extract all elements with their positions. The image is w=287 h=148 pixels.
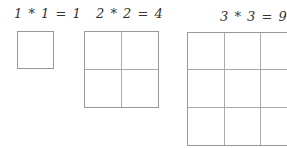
grid-cell	[188, 33, 225, 70]
grid-cell	[18, 32, 53, 68]
equation-label-3x3: 3 * 3 = 9	[220, 9, 287, 24]
grid-3x3	[187, 32, 287, 146]
grid-2x2	[84, 31, 159, 108]
grid-cell	[122, 32, 159, 70]
grid-cell	[122, 70, 159, 108]
grid-1x1	[17, 31, 54, 69]
grid-cell	[85, 70, 122, 108]
equation-label-2x2: 2 * 2 = 4	[96, 6, 164, 21]
grid-cell	[261, 108, 287, 145]
grid-cell	[188, 70, 225, 107]
equation-label-1x1: 1 * 1 = 1	[14, 6, 82, 21]
grid-cell	[225, 33, 262, 70]
grid-cell	[225, 70, 262, 107]
grid-cell	[188, 108, 225, 145]
grid-cell	[225, 108, 262, 145]
grid-cell	[261, 70, 287, 107]
grid-cell	[85, 32, 122, 70]
grid-cell	[261, 33, 287, 70]
